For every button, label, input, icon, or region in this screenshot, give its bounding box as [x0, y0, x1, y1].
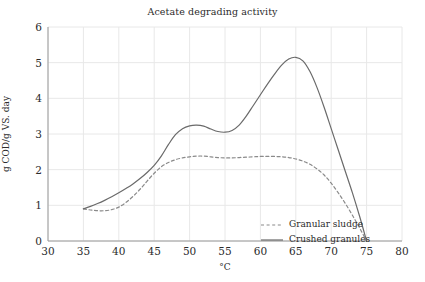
y-axis-title: g COD/g VS. day: [1, 96, 11, 172]
y-tick-label: 5: [35, 57, 42, 69]
x-tick-label: 55: [218, 245, 231, 257]
series-paths: [83, 57, 366, 241]
legend-swatch-solid-icon: [261, 236, 283, 244]
x-tick-label: 45: [148, 245, 161, 257]
y-tick-label: 6: [35, 21, 42, 33]
x-tick-label: 30: [41, 245, 54, 257]
legend-item-granular-sludge: Granular sludge: [261, 217, 370, 232]
chart-figure: Acetate degrading activity 0123456 30354…: [0, 0, 425, 282]
series-line-crushed-granules: [83, 57, 366, 241]
plot-area: 0123456 3035404550556065707580 Granular …: [48, 27, 402, 241]
x-tick-label: 80: [395, 245, 408, 257]
x-tick-label: 50: [183, 245, 196, 257]
legend-swatch-dashed-icon: [261, 221, 283, 229]
y-tick-label: 4: [35, 92, 42, 104]
chart-title: Acetate degrading activity: [0, 6, 425, 17]
y-tick-label: 1: [35, 199, 42, 211]
y-tick-label: 2: [35, 164, 42, 176]
x-tick-label: 35: [77, 245, 90, 257]
series-curves: [48, 27, 402, 241]
legend-label-granular-sludge: Granular sludge: [289, 217, 363, 232]
y-tick-label: 3: [35, 128, 42, 140]
x-tick-label: 40: [112, 245, 125, 257]
legend-item-crushed-granules: Crushed granules: [261, 232, 370, 247]
chart-legend: Granular sludge Crushed granules: [261, 217, 370, 247]
x-axis-title: °C: [48, 262, 402, 272]
legend-label-crushed-granules: Crushed granules: [289, 232, 370, 247]
